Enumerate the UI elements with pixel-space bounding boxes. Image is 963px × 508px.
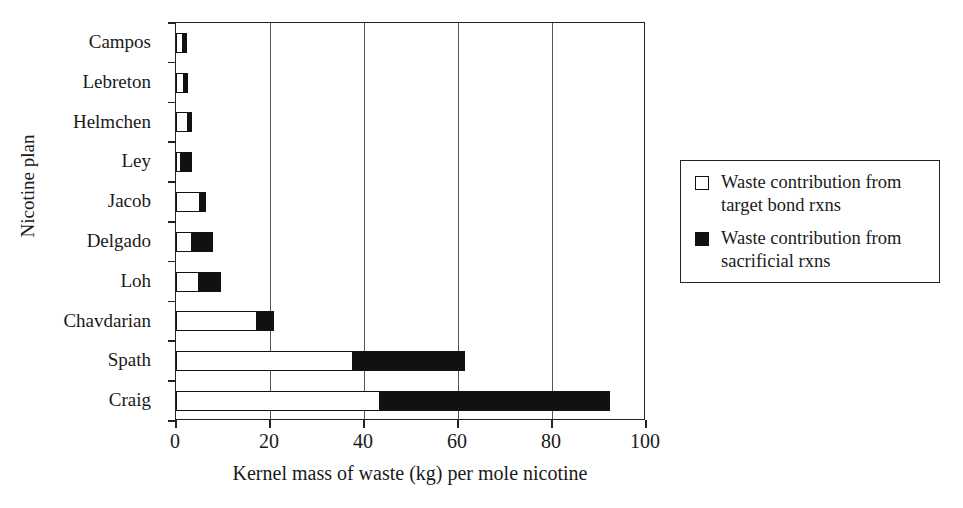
x-tick-label-40: 40 — [333, 430, 393, 453]
bar-group — [176, 222, 644, 262]
x-tick-mark-100 — [645, 420, 647, 428]
bar-group — [176, 63, 644, 103]
bar-group — [176, 302, 644, 342]
filled-square-swatch — [695, 232, 709, 246]
x-tick-label-0: 0 — [145, 430, 205, 453]
legend-item: Waste contribution from target bond rxns — [695, 171, 901, 217]
bar-segment — [200, 192, 206, 212]
x-tick-label-60: 60 — [427, 430, 487, 453]
bar-group — [176, 262, 644, 302]
y-tick-label-helmchen: Helmchen — [73, 102, 151, 142]
bar-segment — [176, 192, 200, 212]
y-tick-label-spath: Spath — [108, 340, 151, 380]
y-tick-label-campos: Campos — [89, 22, 151, 62]
bar-group — [176, 381, 644, 421]
plot-area — [175, 22, 645, 420]
bar-segment — [199, 272, 221, 292]
chart-figure: Nicotine plan CamposLebretonHelmchenLeyJ… — [0, 0, 963, 508]
y-tick-label-loh: Loh — [120, 261, 151, 301]
legend-item: Waste contribution from sacrificial rxns — [695, 227, 901, 273]
bar-segment — [176, 351, 353, 371]
bar-group — [176, 341, 644, 381]
open-square-swatch — [695, 176, 709, 190]
bar-segment — [353, 351, 465, 371]
y-tick-label-ley: Ley — [121, 141, 151, 181]
x-tick-mark-0 — [175, 420, 177, 428]
x-tick-mark-80 — [551, 420, 553, 428]
bar-segment — [257, 311, 274, 331]
bar-segment — [192, 232, 214, 252]
bar-segment — [380, 391, 611, 411]
bar-segment — [176, 391, 380, 411]
bar-segment — [176, 272, 199, 292]
bar-segment — [176, 112, 188, 132]
bar-segment — [176, 232, 192, 252]
x-tick-mark-60 — [457, 420, 459, 428]
bar-segment — [181, 152, 193, 172]
y-tick-label-chavdarian: Chavdarian — [63, 301, 151, 341]
y-tick-label-craig: Craig — [109, 380, 151, 420]
chart-legend: Waste contribution from target bond rxns… — [680, 160, 940, 283]
x-tick-label-80: 80 — [521, 430, 581, 453]
x-axis-title: Kernel mass of waste (kg) per mole nicot… — [175, 462, 645, 485]
bar-segment — [176, 33, 183, 53]
bar-segment — [184, 73, 188, 93]
x-tick-label-20: 20 — [239, 430, 299, 453]
y-axis-labels: CamposLebretonHelmchenLeyJacobDelgadoLoh… — [0, 22, 163, 420]
bar-group — [176, 142, 644, 182]
legend-label: Waste contribution from target bond rxns — [721, 171, 901, 217]
x-tick-mark-40 — [363, 420, 365, 428]
y-tick-label-lebreton: Lebreton — [82, 62, 151, 102]
legend-label: Waste contribution from sacrificial rxns — [721, 227, 901, 273]
bar-group — [176, 182, 644, 222]
bar-segment — [176, 73, 184, 93]
bar-segment — [183, 33, 187, 53]
bar-segment — [188, 112, 192, 132]
bar-group — [176, 103, 644, 143]
x-tick-mark-20 — [269, 420, 271, 428]
y-tick-label-jacob: Jacob — [108, 181, 151, 221]
y-tick-label-delgado: Delgado — [87, 221, 151, 261]
bar-segment — [176, 311, 257, 331]
x-tick-label-100: 100 — [615, 430, 675, 453]
bar-group — [176, 23, 644, 63]
